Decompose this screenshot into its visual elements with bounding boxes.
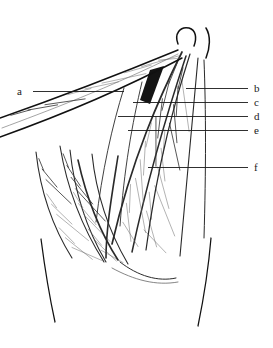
label-f: f (254, 161, 258, 173)
label-e: e (254, 124, 259, 136)
figure-background (0, 0, 273, 348)
label-b: b (254, 82, 260, 94)
label-d: d (254, 110, 260, 122)
anatomy-figure-root: abcdef (0, 0, 273, 348)
anatomy-illustration-svg: abcdef (0, 0, 273, 348)
label-a: a (17, 85, 22, 97)
label-c: c (254, 96, 259, 108)
